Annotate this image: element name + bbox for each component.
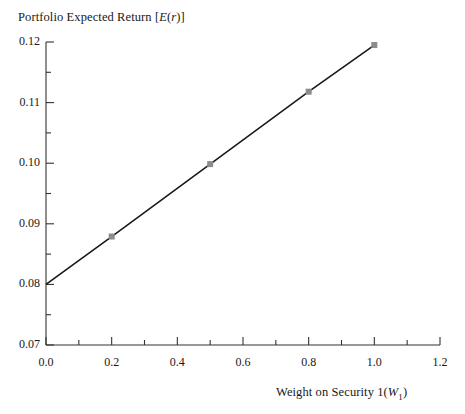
chart-figure: Portfolio Expected Return [E(r)] 0.070.0… (0, 0, 465, 414)
y-axis-tick-label: 0.08 (6, 276, 40, 291)
data-point-marker (109, 234, 115, 240)
x-axis-tick-label: 0.0 (26, 355, 66, 370)
y-axis-tick-label: 0.12 (6, 34, 40, 49)
y-axis-tick-label: 0.07 (6, 337, 40, 352)
y-axis-tick-label: 0.11 (6, 95, 40, 110)
x-axis-label: Weight on Security 1(W1) (276, 385, 407, 402)
x-axis-tick-label: 0.6 (223, 355, 263, 370)
data-point-marker (306, 89, 312, 95)
y-axis-tick-label: 0.09 (6, 216, 40, 231)
x-axis-tick-label: 0.2 (92, 355, 132, 370)
x-axis-tick-label: 1.2 (420, 355, 460, 370)
data-point-marker (207, 161, 213, 167)
x-major-tick-marks (46, 337, 440, 345)
x-axis-label-lead: Weight on Security 1( (276, 385, 388, 399)
x-axis-tick-label: 1.0 (354, 355, 394, 370)
y-minor-tick-marks (46, 72, 51, 314)
data-point-marker (371, 42, 377, 48)
y-axis-tick-label: 0.10 (6, 155, 40, 170)
x-axis-tick-label: 0.4 (157, 355, 197, 370)
x-axis-tick-label: 0.8 (289, 355, 329, 370)
x-axis-label-w-symbol: W (388, 385, 399, 399)
plot-area (0, 0, 465, 414)
x-axis-label-close: ) (403, 385, 407, 399)
